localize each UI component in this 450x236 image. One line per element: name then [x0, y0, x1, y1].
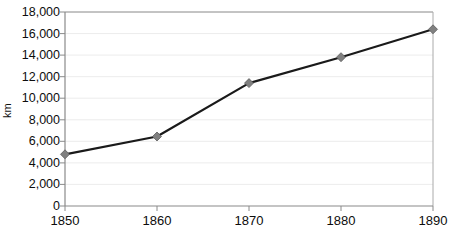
x-axis-tick-labels: 1850 1860 1870 1880 1890 — [0, 0, 450, 236]
x-tick-label: 1890 — [403, 214, 450, 228]
x-tick-label: 1880 — [311, 214, 371, 228]
line-chart: km 0 2,000 4,000 6,000 8,000 10,000 12,0… — [0, 0, 450, 236]
x-tick-label: 1870 — [219, 214, 279, 228]
x-tick-label: 1860 — [127, 214, 187, 228]
x-tick-label: 1850 — [35, 214, 95, 228]
